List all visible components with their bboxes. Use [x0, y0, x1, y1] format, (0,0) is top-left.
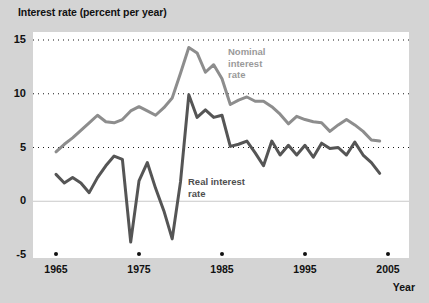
x-tick-dot-1995 [303, 252, 307, 256]
chart-svg [33, 32, 409, 258]
x-tick-label-1985: 1985 [202, 263, 242, 275]
x-tick-dot-2005 [386, 252, 390, 256]
x-tick-label-1975: 1975 [119, 263, 159, 275]
annotation-nominal-line-3: rate [228, 69, 265, 81]
x-tick-label-1995: 1995 [285, 263, 325, 275]
annotation-nominal-line-2: interest [228, 58, 265, 70]
y-tick-label-15: 15 [2, 33, 26, 45]
x-tick-dot-1975 [137, 252, 141, 256]
x-axis-title: Year [393, 281, 415, 293]
y-tick-label-10: 10 [2, 87, 26, 99]
annotation-real-line-1: Real interest [188, 176, 245, 188]
annotation-real-line-2: rate [188, 188, 245, 200]
x-tick-dot-1965 [54, 252, 58, 256]
annotation-nominal-line-1: Nominal [228, 46, 265, 58]
plot-area: Nominal interest rate Real interest rate [33, 32, 409, 258]
series-line-nominal [56, 48, 380, 152]
x-tick-dot-1985 [220, 252, 224, 256]
annotation-nominal-interest-rate: Nominal interest rate [228, 46, 265, 81]
annotation-real-interest-rate: Real interest rate [188, 176, 245, 199]
x-tick-label-2005: 2005 [368, 263, 408, 275]
series-line-real [56, 95, 380, 242]
y-tick-label-0: 0 [2, 194, 26, 206]
y-tick-label-5: 5 [2, 141, 26, 153]
series-paths [56, 48, 380, 243]
chart-figure: Interest rate (percent per year) Nominal… [0, 0, 429, 303]
x-tick-label-1965: 1965 [36, 263, 76, 275]
chart-title: Interest rate (percent per year) [18, 6, 167, 18]
y-tick-label--5: -5 [2, 248, 26, 260]
